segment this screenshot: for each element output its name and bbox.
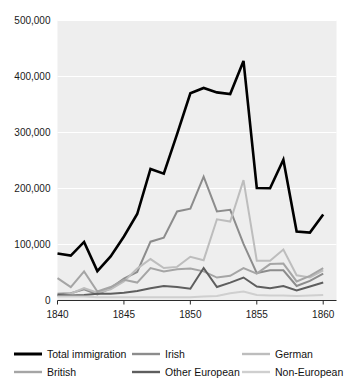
chart-legend: Total immigrationIrishGermanBritishOther… — [14, 348, 343, 378]
chart-canvas: 0100,000200,000300,000400,000500,000 184… — [0, 0, 344, 385]
immigration-line-chart: 0100,000200,000300,000400,000500,000 184… — [0, 0, 344, 385]
y-tick-label: 0 — [45, 295, 51, 306]
legend-label: Total immigration — [47, 348, 127, 360]
x-tick-label: 1860 — [312, 309, 335, 320]
legend-item-german: German — [242, 348, 313, 360]
legend-label: Non-European — [275, 366, 343, 378]
x-tick-label: 1840 — [46, 309, 69, 320]
y-axis-ticks: 0100,000200,000300,000400,000500,000 — [14, 15, 51, 306]
y-tick-label: 200,000 — [14, 183, 51, 194]
legend-label: Other European — [165, 366, 240, 378]
y-tick-label: 100,000 — [14, 239, 51, 250]
legend-item-non-european: Non-European — [242, 366, 343, 378]
legend-label: German — [275, 348, 313, 360]
y-tick-label: 300,000 — [14, 127, 51, 138]
y-tick-label: 400,000 — [14, 71, 51, 82]
legend-item-other-european: Other European — [132, 366, 240, 378]
legend-label: Irish — [165, 348, 185, 360]
y-tick-label: 500,000 — [14, 15, 51, 26]
legend-item-irish: Irish — [132, 348, 185, 360]
x-tick-label: 1845 — [113, 309, 136, 320]
legend-item-total-immigration: Total immigration — [14, 348, 127, 360]
legend-item-british: British — [14, 366, 76, 378]
x-tick-label: 1850 — [179, 309, 202, 320]
x-axis-ticks: 18401845185018551860 — [46, 301, 334, 320]
legend-label: British — [47, 366, 76, 378]
x-tick-label: 1855 — [246, 309, 269, 320]
